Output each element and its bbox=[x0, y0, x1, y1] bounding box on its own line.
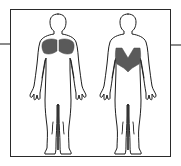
back-body-figure bbox=[100, 14, 156, 154]
chest-muscle-right bbox=[59, 39, 74, 54]
anatomy-diagram bbox=[0, 0, 181, 166]
chest-muscle-left bbox=[42, 39, 57, 54]
front-body-figure bbox=[30, 14, 86, 154]
